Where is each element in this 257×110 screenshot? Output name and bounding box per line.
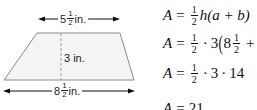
top-base-label: 5 1 2 in. — [58, 10, 88, 27]
equation-line-1: A = 1 2 h(a + b) — [163, 4, 250, 27]
half-fraction: 1 2 — [191, 62, 198, 85]
bottom-arrow-right-icon — [128, 89, 135, 94]
bottom-base-unit: in. — [69, 85, 81, 97]
top-arrow-right-icon — [113, 17, 120, 22]
bottom-base-label: 8 1 2 in. — [52, 82, 82, 99]
equation-line-3: A = 1 2 · 3 · 14 — [163, 62, 244, 85]
equation-line-4: A = 21 — [163, 100, 204, 110]
bottom-base-whole: 8 — [54, 85, 60, 97]
mixed-fraction: 1 2 — [233, 32, 240, 55]
bottom-arrow-left-icon — [3, 89, 10, 94]
open-paren: ( — [219, 30, 223, 56]
half-fraction: 1 2 — [191, 4, 198, 27]
top-base-unit: in. — [75, 13, 87, 25]
bottom-base-fraction: 1 2 — [61, 82, 67, 99]
equation-line-2: A = 1 2 · 3 ( 8 1 2 + — [163, 30, 257, 56]
half-fraction: 1 2 — [191, 32, 198, 55]
top-base-fraction: 1 2 — [67, 10, 73, 27]
top-arrow-left-icon — [38, 17, 45, 22]
top-base-whole: 5 — [60, 13, 66, 25]
height-label: 3 in. — [62, 52, 87, 64]
trapezoid-figure: 5 1 2 in. 3 in. 8 1 2 in. — [0, 0, 140, 110]
